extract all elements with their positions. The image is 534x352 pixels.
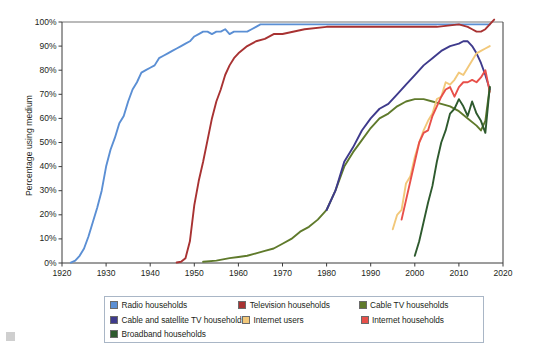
legend-item[interactable]: Radio households <box>110 300 234 310</box>
legend-swatch-icon <box>359 301 367 309</box>
legend-label: Television households <box>250 300 330 310</box>
series-line-broadband-households <box>415 87 490 256</box>
legend-label: Internet households <box>372 315 444 325</box>
legend-item[interactable]: Broadband households <box>110 329 238 339</box>
legend-label: Cable and satellite TV households <box>122 315 246 325</box>
y-tick-label: 40% <box>27 161 57 171</box>
x-tick-label: 1950 <box>174 268 214 278</box>
legend-label: Radio households <box>122 300 188 310</box>
y-tick-label: 0% <box>27 258 57 268</box>
x-tick-label: 1970 <box>263 268 303 278</box>
y-tick-label: 100% <box>27 17 57 27</box>
legend-label: Broadband households <box>122 329 206 339</box>
corner-marker <box>6 332 15 341</box>
legend-swatch-icon <box>110 330 118 338</box>
series-line-cable-and-satellite-tv-households <box>327 41 490 210</box>
chart-legend: Radio householdsTelevision householdsCab… <box>104 296 484 343</box>
x-tick-label: 1980 <box>307 268 347 278</box>
legend-item[interactable]: Television households <box>238 300 354 310</box>
series-line-television-households <box>177 20 495 263</box>
y-tick-label: 80% <box>27 65 57 75</box>
legend-row: Cable and satellite TV householdsInterne… <box>110 315 479 330</box>
x-tick-label: 1920 <box>42 268 82 278</box>
series-line-internet-households <box>402 70 490 219</box>
x-tick-label: 2020 <box>483 268 523 278</box>
legend-label: Cable TV households <box>370 300 448 310</box>
series-line-radio-households <box>71 24 490 262</box>
legend-item[interactable]: Internet households <box>361 315 476 325</box>
legend-swatch-icon <box>238 301 246 309</box>
y-tick-label: 70% <box>27 89 57 99</box>
y-tick-label: 60% <box>27 113 57 123</box>
series-lines <box>71 20 494 263</box>
series-line-internet-users <box>393 46 490 229</box>
legend-swatch-icon <box>110 301 118 309</box>
axes <box>59 22 504 267</box>
legend-item[interactable]: Cable and satellite TV households <box>110 315 238 325</box>
legend-item[interactable]: Cable TV households <box>359 300 475 310</box>
series-line-cable-tv-households <box>203 87 490 262</box>
x-tick-label: 2000 <box>395 268 435 278</box>
x-tick-label: 2010 <box>439 268 479 278</box>
y-tick-label: 90% <box>27 41 57 51</box>
legend-swatch-icon <box>242 316 250 324</box>
legend-row: Broadband households <box>110 329 479 344</box>
y-tick-label: 20% <box>27 209 57 219</box>
chart-figure: Percentage using medium 0%10%20%30%40%50… <box>0 0 534 352</box>
x-tick-label: 1960 <box>218 268 258 278</box>
legend-row: Radio householdsTelevision householdsCab… <box>110 300 479 315</box>
x-tick-label: 1990 <box>351 268 391 278</box>
legend-swatch-icon <box>110 316 118 324</box>
y-tick-label: 50% <box>27 137 57 147</box>
legend-swatch-icon <box>361 316 369 324</box>
y-tick-label: 30% <box>27 185 57 195</box>
legend-label: Internet users <box>254 315 304 325</box>
x-tick-label: 1930 <box>86 268 126 278</box>
x-tick-label: 1940 <box>130 268 170 278</box>
legend-item[interactable]: Internet users <box>242 315 357 325</box>
y-tick-label: 10% <box>27 233 57 243</box>
